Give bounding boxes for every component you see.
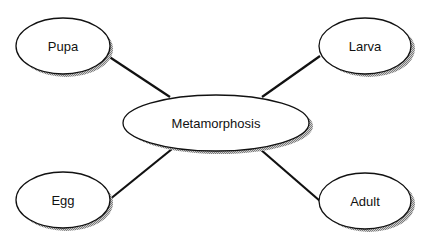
node-label: Pupa [48,39,79,54]
edge-larva [262,56,320,97]
node-pupa: Pupa [16,18,113,77]
concept-map: Pupa Larva Metamorphosis Egg Adult [0,0,430,248]
node-label: Metamorphosis [172,116,261,131]
node-adult: Adult [319,173,415,232]
edge-egg [109,149,172,200]
node-label: Larva [349,39,382,54]
edge-pupa [108,56,170,97]
node-label: Adult [350,194,380,209]
node-label: Egg [51,193,74,208]
node-metamorphosis: Metamorphosis [123,95,313,154]
edge-adult [260,149,320,201]
node-egg: Egg [16,172,113,231]
node-larva: Larva [319,18,415,77]
